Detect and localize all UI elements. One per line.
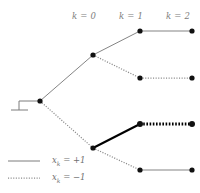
edge-e-n1p-plus [93,31,140,55]
node-k1-minus[interactable] [90,145,95,150]
legend-label-minus-one: xk = −1 [52,172,86,184]
legend-equals: = [60,172,73,182]
node-k2-plus-minus[interactable] [137,75,142,80]
node-terminal-plus-minus[interactable] [189,75,194,80]
legend-line-samples [8,161,40,178]
node-terminal-plus-plus[interactable] [189,28,194,33]
legend-value: +1 [73,155,86,165]
node-k2-plus-plus[interactable] [137,28,142,33]
edge-e-n1p-minus [93,55,140,78]
node-layer [37,28,195,172]
edge-e-root-plus [40,55,93,101]
node-k2-minus-minus[interactable] [137,167,142,172]
edge-e-root-minus [40,101,93,148]
edge-layer [40,31,192,170]
edge-e-n1m-plus [93,124,140,148]
tree-graphics [0,0,200,193]
node-terminal-minus-minus[interactable] [189,167,194,172]
stage-label-k0: k = 0 [72,11,96,21]
node-k1-plus[interactable] [90,52,95,57]
node-k2-minus-plus[interactable] [137,121,143,127]
legend-value: −1 [73,172,86,182]
stage-label-k1: k = 1 [119,11,143,21]
node-root[interactable] [37,98,42,103]
ground-layer [11,101,38,110]
node-terminal-minus-plus[interactable] [189,121,195,127]
legend-equals: = [60,155,73,165]
legend-label-plus-one: xk = +1 [52,155,86,167]
edge-e-n1m-minus [93,148,140,170]
stage-label-k2: k = 2 [166,11,190,21]
decision-tree-figure: k = 0k = 1k = 2 xk = +1xk = −1 [0,0,200,193]
